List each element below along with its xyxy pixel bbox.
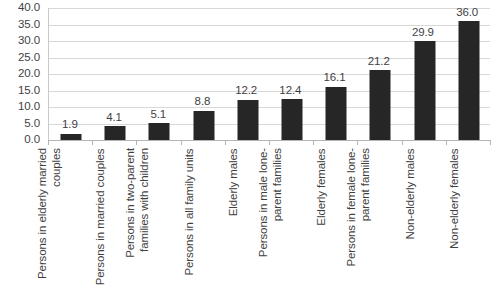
x-axis-label-slot: Non-elderly males (402, 145, 446, 288)
bar-slot: 5.1 (137, 8, 181, 140)
x-axis-tick-label-text: Elderly females (315, 148, 329, 286)
x-axis-tick-label-text: Persons in elderly married couples (36, 148, 63, 286)
bar-slot: 16.1 (314, 8, 358, 140)
bar-value-label: 1.9 (62, 119, 78, 131)
bar-value-label: 29.9 (412, 27, 434, 39)
x-axis-tick-label-text: Non-elderly males (403, 148, 417, 286)
bar[interactable] (149, 123, 170, 140)
bar[interactable] (370, 70, 391, 140)
plot-area: 1.94.15.18.812.212.416.121.229.936.0 (48, 8, 490, 140)
bar-slot: 12.2 (226, 8, 270, 140)
bar-slot: 4.1 (93, 8, 137, 140)
bar-slot: 8.8 (182, 8, 226, 140)
bar-value-label: 5.1 (150, 109, 166, 121)
bar-series: 1.94.15.18.812.212.416.121.229.936.0 (49, 8, 490, 140)
bar[interactable] (237, 100, 258, 140)
bar[interactable] (193, 111, 214, 140)
bar[interactable] (414, 41, 435, 140)
bar-value-label: 12.2 (235, 85, 257, 97)
bar-value-label: 8.8 (195, 96, 211, 108)
x-axis-tick-label-text: Persons in male lone-parent families (257, 148, 284, 286)
bar[interactable] (326, 87, 347, 140)
bar-slot: 21.2 (358, 8, 402, 140)
bar-chart: 40.035.030.025.020.015.010.05.00.0 1.94.… (0, 0, 497, 288)
bar-value-label: 36.0 (456, 7, 478, 19)
category-tick (490, 140, 491, 145)
bar-value-label: 12.4 (279, 85, 301, 97)
y-axis: 40.035.030.025.020.015.010.05.00.0 (0, 8, 44, 140)
x-axis-tick-label-text: Persons in married couples (94, 148, 108, 286)
bar-value-label: 21.2 (368, 56, 390, 68)
x-axis-tick-label-text: Non-elderly females (447, 148, 461, 286)
x-axis-tick-label-text: Elderly males (226, 148, 240, 286)
bar[interactable] (458, 21, 479, 140)
y-axis-tick-label: 35.0 (18, 19, 40, 31)
bar[interactable] (105, 126, 126, 140)
bar-slot: 29.9 (403, 8, 447, 140)
bar-slot: 12.4 (270, 8, 314, 140)
y-axis-tick-label: 20.0 (18, 68, 40, 80)
y-axis-tick-label: 40.0 (18, 2, 40, 14)
bar[interactable] (282, 99, 303, 140)
x-axis-label-slot: Persons in male lone-parent families (269, 145, 313, 288)
y-axis-tick-label: 25.0 (18, 52, 40, 64)
x-axis-label-slot: Persons in elderly married couples (48, 145, 92, 288)
y-axis-tick-label: 10.0 (18, 101, 40, 113)
y-axis-tick-label: 30.0 (18, 35, 40, 47)
x-axis-tick-label-text: Persons in two-parent families with chil… (124, 148, 151, 286)
bar-value-label: 4.1 (106, 112, 122, 124)
x-axis-label-slot: Persons in all family units (181, 145, 225, 288)
y-axis-tick-label: 5.0 (24, 118, 40, 130)
bar-value-label: 16.1 (324, 72, 346, 84)
bar-slot: 1.9 (49, 8, 93, 140)
x-axis-tick-label-text: Persons in female lone-parent families (345, 148, 372, 286)
x-axis: Persons in elderly married couplesPerson… (48, 145, 490, 288)
bar-slot: 36.0 (447, 8, 491, 140)
x-axis-tick-label-text: Persons in all family units (182, 148, 196, 286)
x-axis-label-slot: Persons in two-parent families with chil… (136, 145, 180, 288)
x-axis-label-slot: Non-elderly females (446, 145, 490, 288)
x-axis-label-slot: Persons in female lone-parent families (357, 145, 401, 288)
y-axis-tick-label: 0.0 (24, 134, 40, 146)
y-axis-tick-label: 15.0 (18, 85, 40, 97)
